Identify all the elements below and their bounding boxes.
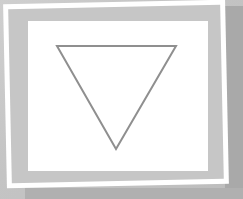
inverted-triangle-icon bbox=[0, 0, 243, 199]
photo-scene bbox=[0, 0, 243, 199]
